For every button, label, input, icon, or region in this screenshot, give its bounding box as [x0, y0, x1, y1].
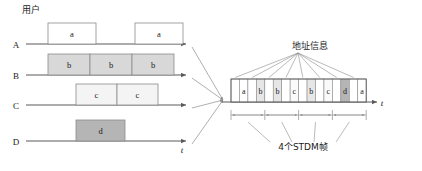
- frames-caption-pointer-3: [336, 122, 349, 142]
- stream-cell-6[interactable]: [282, 79, 290, 102]
- stream-cell-2[interactable]: [248, 79, 256, 102]
- block-label-B-1: b: [109, 60, 113, 70]
- stream-cell-4[interactable]: [265, 79, 273, 102]
- stdm-diagram: 用户AaaBbbbCccDdttabbcbcda地址信息4个STDM帧: [0, 0, 422, 171]
- row-label-A: A: [13, 40, 20, 50]
- address-pointer-0: [235, 53, 298, 78]
- stream-cell-14[interactable]: [349, 79, 357, 102]
- block-label-C-1: c: [136, 90, 140, 100]
- row-label-C: C: [13, 101, 19, 111]
- address-pointer-4: [298, 53, 303, 78]
- address-pointer-6: [298, 53, 337, 78]
- stream-cell-label-7: c: [293, 87, 297, 96]
- stream-time-axis-label: t: [381, 98, 384, 108]
- block-label-C-0: c: [95, 90, 99, 100]
- row-label-B: B: [13, 71, 19, 81]
- address-pointer-1: [252, 53, 298, 78]
- stream-cell-label-3: b: [259, 87, 263, 96]
- stream-cell-label-15: a: [360, 87, 364, 96]
- address-pointer-3: [286, 53, 298, 78]
- frames-caption: 4个STDM帧: [278, 141, 328, 152]
- left-panel-title: 用户: [22, 4, 40, 15]
- stream-cell-label-9: b: [309, 87, 313, 96]
- frames-caption-pointer-2: [314, 122, 316, 142]
- frames-caption-pointer-1: [282, 122, 292, 142]
- address-pointer-5: [298, 53, 320, 78]
- converge-arrow-1: [192, 78, 223, 100]
- stream-cell-8[interactable]: [299, 79, 307, 102]
- address-pointer-7: [298, 53, 354, 78]
- address-info-label: 地址信息: [292, 40, 328, 51]
- block-label-B-2: b: [151, 60, 155, 70]
- address-pointer-2: [269, 53, 298, 78]
- stream-cell-label-11: c: [326, 87, 330, 96]
- converge-arrow-0: [192, 47, 223, 100]
- block-label-A-1: a: [157, 29, 161, 39]
- frames-caption-pointer-0: [248, 122, 270, 142]
- block-label-B-0: b: [67, 60, 71, 70]
- block-label-A-0: a: [70, 29, 74, 39]
- stream-cell-label-1: a: [242, 87, 246, 96]
- row-label-D: D: [13, 137, 20, 147]
- stream-cell-label-5: b: [275, 87, 279, 96]
- stream-cell-12[interactable]: [332, 79, 340, 102]
- stream-cell-0[interactable]: [231, 79, 239, 102]
- figure-stage: 用户AaaBbbbCccDdttabbcbcda地址信息4个STDM帧: [0, 0, 422, 171]
- stream-cell-10[interactable]: [316, 79, 324, 102]
- stream-cell-label-13: d: [343, 87, 347, 96]
- left-time-axis-label: t: [181, 145, 184, 155]
